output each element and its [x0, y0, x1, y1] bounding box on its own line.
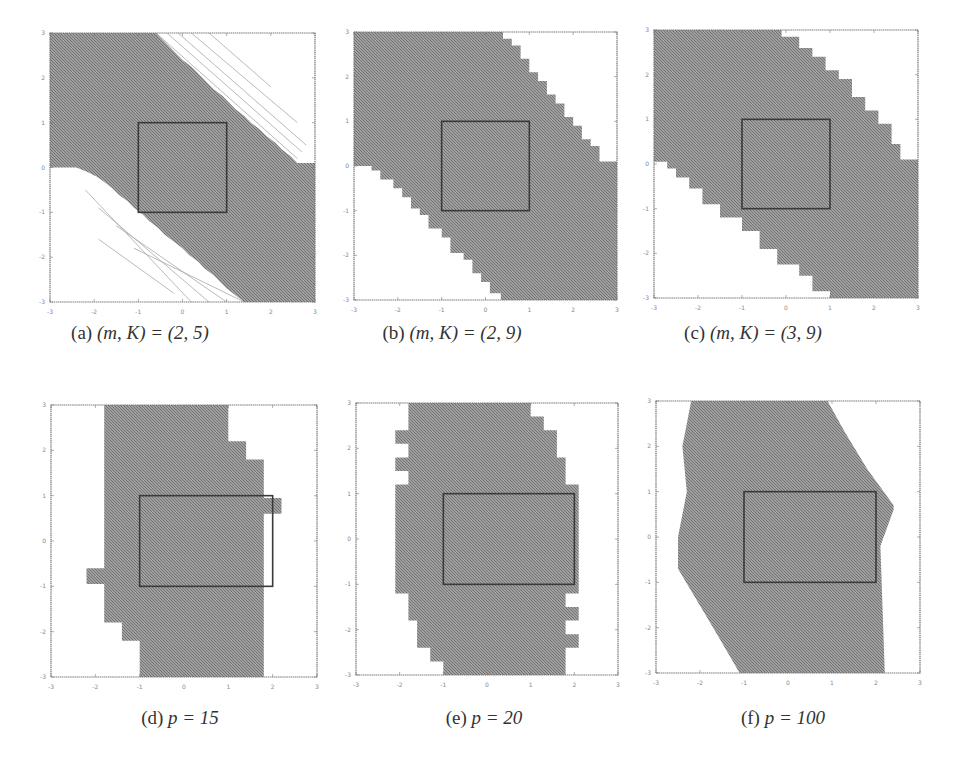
x-tick-label: 3 [918, 679, 922, 686]
y-tick-label: -3 [645, 669, 651, 676]
subplot-f-canvas: -3-3-2-2-1-100112233 [0, 0, 955, 771]
x-tick-label: 0 [786, 679, 790, 686]
y-tick-label: 0 [647, 533, 651, 540]
y-tick-label: -1 [645, 578, 651, 585]
y-tick-label: 2 [647, 442, 651, 449]
x-tick-label: -1 [741, 679, 747, 686]
caption-label: (f) [741, 707, 765, 728]
x-tick-label: -3 [653, 679, 659, 686]
y-tick-label: 1 [647, 488, 651, 495]
y-tick-label: 3 [647, 397, 651, 404]
x-tick-label: 1 [830, 679, 834, 686]
caption-math: p = 100 [765, 707, 825, 728]
subplot-caption: (f) p = 100 [741, 707, 825, 729]
x-tick-label: -2 [697, 679, 703, 686]
x-tick-label: 2 [874, 679, 878, 686]
feasible-region [678, 401, 894, 673]
y-tick-label: -2 [645, 624, 651, 631]
